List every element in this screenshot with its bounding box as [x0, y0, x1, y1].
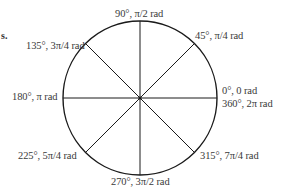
label-270-deg: 270°, 3π/2 rad [111, 176, 170, 188]
center-point [138, 96, 141, 99]
label-225-deg: 225°, 5π/4 rad [18, 150, 77, 162]
label-0-deg: 0°, 0 rad [222, 85, 257, 97]
label-180-deg: 180°, π rad [12, 91, 57, 103]
label-360-deg: 360°, 2π rad [222, 98, 273, 110]
label-90-deg: 90°, π/2 rad [115, 8, 163, 20]
label-45-deg: 45°, π/4 rad [195, 30, 243, 42]
label-135-deg: 135°, 3π/4 rad [26, 40, 85, 52]
label-315-deg: 315°, 7π/4 rad [200, 150, 259, 162]
